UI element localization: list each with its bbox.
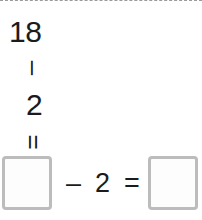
second-answer-input[interactable] (148, 156, 198, 210)
first-answer-input[interactable] (2, 156, 52, 210)
vertical-minuend: 18 (9, 17, 41, 47)
answer-equation-row: – 2 = (2, 154, 198, 212)
row-minus-operator: – (66, 170, 81, 197)
row-equals-operator: = (124, 170, 140, 197)
row-subtrahend: 2 (95, 170, 110, 197)
vertical-equation: 18 – 2 = (8, 17, 60, 155)
vertical-minus-operator-icon: – (21, 61, 47, 75)
subtraction-exercise-panel: 18 – 2 = – 2 = (0, 0, 202, 220)
vertical-equals-operator-icon: = (21, 134, 47, 149)
vertical-subtrahend: 2 (26, 90, 42, 120)
